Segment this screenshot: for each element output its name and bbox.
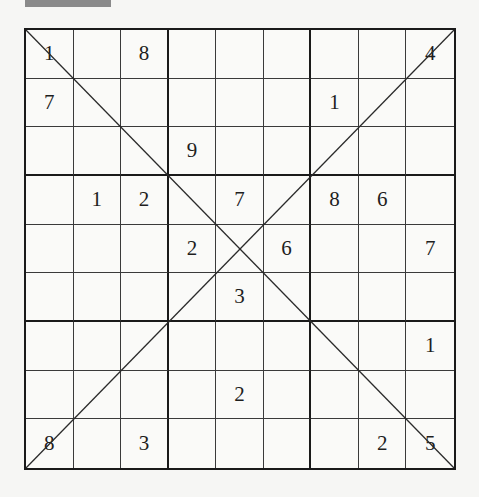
cell-r4c5[interactable]: 7 — [216, 176, 264, 225]
cell-r4c6[interactable] — [264, 176, 312, 225]
cell-r8c8[interactable] — [359, 371, 407, 420]
cell-r2c7[interactable]: 1 — [311, 79, 359, 128]
cell-r4c2[interactable]: 1 — [74, 176, 122, 225]
cell-r4c3[interactable]: 2 — [121, 176, 169, 225]
cell-r7c1[interactable] — [26, 322, 74, 371]
cell-r9c8[interactable]: 2 — [359, 419, 407, 468]
cell-r7c9[interactable]: 1 — [406, 322, 454, 371]
cell-r2c5[interactable] — [216, 79, 264, 128]
cell-r8c4[interactable] — [169, 371, 217, 420]
cell-r3c9[interactable] — [406, 127, 454, 176]
cell-r9c2[interactable] — [74, 419, 122, 468]
cell-r1c9[interactable]: 4 — [406, 30, 454, 79]
cell-r6c4[interactable] — [169, 273, 217, 322]
cell-r9c6[interactable] — [264, 419, 312, 468]
cell-r1c1[interactable]: 1 — [26, 30, 74, 79]
cell-r6c7[interactable] — [311, 273, 359, 322]
cell-r7c7[interactable] — [311, 322, 359, 371]
cell-r9c4[interactable] — [169, 419, 217, 468]
cell-r3c2[interactable] — [74, 127, 122, 176]
cell-r1c5[interactable] — [216, 30, 264, 79]
cell-r3c7[interactable] — [311, 127, 359, 176]
cell-r6c5[interactable]: 3 — [216, 273, 264, 322]
cell-r8c7[interactable] — [311, 371, 359, 420]
cell-r5c7[interactable] — [311, 225, 359, 274]
cell-r1c2[interactable] — [74, 30, 122, 79]
cell-r1c8[interactable] — [359, 30, 407, 79]
cell-r7c3[interactable] — [121, 322, 169, 371]
cell-r9c5[interactable] — [216, 419, 264, 468]
cell-r4c1[interactable] — [26, 176, 74, 225]
cell-r6c6[interactable] — [264, 273, 312, 322]
cell-r4c4[interactable] — [169, 176, 217, 225]
cell-r3c6[interactable] — [264, 127, 312, 176]
cell-r8c9[interactable] — [406, 371, 454, 420]
cell-r4c9[interactable] — [406, 176, 454, 225]
cell-r5c2[interactable] — [74, 225, 122, 274]
cell-r9c9[interactable]: 5 — [406, 419, 454, 468]
sudoku-board: 184719127862673128325 — [24, 28, 456, 470]
cell-r3c8[interactable] — [359, 127, 407, 176]
cell-r2c1[interactable]: 7 — [26, 79, 74, 128]
cell-r5c8[interactable] — [359, 225, 407, 274]
cell-r4c8[interactable]: 6 — [359, 176, 407, 225]
cell-r6c3[interactable] — [121, 273, 169, 322]
cell-r7c8[interactable] — [359, 322, 407, 371]
cell-r2c6[interactable] — [264, 79, 312, 128]
cell-r9c1[interactable]: 8 — [26, 419, 74, 468]
cell-r8c2[interactable] — [74, 371, 122, 420]
cell-r6c1[interactable] — [26, 273, 74, 322]
cell-r2c8[interactable] — [359, 79, 407, 128]
cell-r8c5[interactable]: 2 — [216, 371, 264, 420]
cell-r9c3[interactable]: 3 — [121, 419, 169, 468]
cell-r2c2[interactable] — [74, 79, 122, 128]
cell-r2c3[interactable] — [121, 79, 169, 128]
header-banner — [25, 0, 111, 7]
cell-r2c4[interactable] — [169, 79, 217, 128]
cell-r6c9[interactable] — [406, 273, 454, 322]
cell-r7c4[interactable] — [169, 322, 217, 371]
cell-r8c1[interactable] — [26, 371, 74, 420]
cell-r1c3[interactable]: 8 — [121, 30, 169, 79]
cell-r3c1[interactable] — [26, 127, 74, 176]
cell-r5c5[interactable] — [216, 225, 264, 274]
cell-r5c3[interactable] — [121, 225, 169, 274]
cell-r7c6[interactable] — [264, 322, 312, 371]
cell-r2c9[interactable] — [406, 79, 454, 128]
cell-r1c4[interactable] — [169, 30, 217, 79]
cell-r5c4[interactable]: 2 — [169, 225, 217, 274]
cell-r9c7[interactable] — [311, 419, 359, 468]
cell-r5c6[interactable]: 6 — [264, 225, 312, 274]
cell-r3c4[interactable]: 9 — [169, 127, 217, 176]
cell-r8c6[interactable] — [264, 371, 312, 420]
cell-r3c5[interactable] — [216, 127, 264, 176]
cell-r7c5[interactable] — [216, 322, 264, 371]
cell-r5c9[interactable]: 7 — [406, 225, 454, 274]
cell-r6c8[interactable] — [359, 273, 407, 322]
cell-r3c3[interactable] — [121, 127, 169, 176]
cell-r8c3[interactable] — [121, 371, 169, 420]
sudoku-grid: 184719127862673128325 — [26, 30, 454, 468]
cell-r5c1[interactable] — [26, 225, 74, 274]
cell-r6c2[interactable] — [74, 273, 122, 322]
cell-r1c6[interactable] — [264, 30, 312, 79]
cell-r4c7[interactable]: 8 — [311, 176, 359, 225]
cell-r1c7[interactable] — [311, 30, 359, 79]
cell-r7c2[interactable] — [74, 322, 122, 371]
